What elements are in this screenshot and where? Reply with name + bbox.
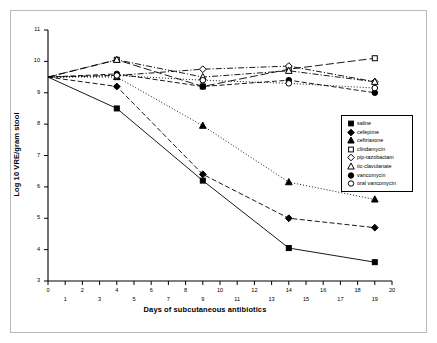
filled-circle-icon: [346, 171, 357, 180]
legend-item-oral-vancomycin[interactable]: oral vancomycin: [346, 179, 409, 188]
legend-item-saline[interactable]: saline: [346, 119, 409, 128]
x-tick-label: 1: [55, 296, 75, 302]
figure: Log 10 VRE/gram stool Days of subcutaneo…: [0, 0, 437, 343]
y-tick-label: 7: [22, 152, 40, 158]
series-vancomycin: [48, 71, 378, 95]
open-circle-icon: [346, 179, 357, 188]
filled-square-icon: [346, 119, 357, 128]
filled-diamond-icon: [346, 128, 357, 137]
legend-item-clindamycin[interactable]: clindamycin: [346, 145, 409, 154]
open-triangle-icon: [346, 162, 357, 171]
series-cefepime: [48, 77, 378, 231]
x-tick-label: 9: [193, 296, 213, 302]
x-tick-label: 4: [107, 287, 127, 293]
y-tick-label: 10: [22, 57, 40, 63]
y-tick-label: 4: [22, 246, 40, 252]
legend-item-ceftriaxone[interactable]: ceftriaxone: [346, 136, 409, 145]
x-tick-label: 3: [90, 296, 110, 302]
legend-item-vancomycin[interactable]: vancomycin: [346, 171, 409, 180]
y-tick-label: 11: [22, 26, 40, 32]
x-tick-label: 7: [158, 296, 178, 302]
legend-item-label: tic-clavulanate: [357, 162, 391, 171]
legend-item-pip-tazobactam[interactable]: pip-tazobactam: [346, 153, 409, 162]
x-tick-label: 19: [365, 296, 385, 302]
y-tick-label: 3: [22, 277, 40, 283]
x-tick-label: 18: [348, 287, 368, 293]
chart-legend: salinecefepimeceftriaxoneclindamycinpip-…: [341, 115, 413, 192]
legend-item-tic-clavulanate[interactable]: tic-clavulanate: [346, 162, 409, 171]
open-diamond-icon: [346, 153, 357, 162]
y-tick-label: 9: [22, 89, 40, 95]
y-tick-label: 6: [22, 183, 40, 189]
x-tick-label: 16: [313, 287, 333, 293]
legend-item-label: clindamycin: [357, 145, 385, 154]
x-tick-label: 20: [382, 287, 402, 293]
legend-item-label: pip-tazobactam: [357, 153, 394, 162]
x-tick-label: 8: [176, 287, 196, 293]
open-square-icon: [346, 145, 357, 154]
x-tick-label: 10: [210, 287, 230, 293]
y-axis-title: Log 10 VRE/gram stool: [12, 95, 21, 215]
series-saline: [48, 77, 377, 265]
legend-item-label: vancomycin: [357, 171, 385, 180]
legend-item-label: cefepime: [357, 128, 379, 137]
x-tick-label: 15: [296, 296, 316, 302]
series-pip-tazobactam: [48, 63, 378, 85]
x-tick-label: 5: [124, 296, 144, 302]
legend-item-cefepime[interactable]: cefepime: [346, 128, 409, 137]
y-tick-label: 8: [22, 120, 40, 126]
x-tick-label: 17: [330, 296, 350, 302]
x-tick-label: 11: [227, 296, 247, 302]
x-tick-label: 13: [262, 296, 282, 302]
legend-item-label: ceftriaxone: [357, 136, 383, 145]
legend-item-label: saline: [357, 119, 371, 128]
legend-item-label: oral vancomycin: [357, 179, 396, 188]
x-tick-label: 14: [279, 287, 299, 293]
x-tick-label: 0: [38, 287, 58, 293]
x-tick-label: 2: [72, 287, 92, 293]
y-tick-label: 5: [22, 214, 40, 220]
filled-triangle-icon: [346, 136, 357, 145]
x-axis-title: Days of subcutaneous antibiotics: [60, 305, 350, 314]
x-tick-label: 6: [141, 287, 161, 293]
x-tick-label: 12: [244, 287, 264, 293]
series-ceftriaxone: [48, 73, 378, 202]
